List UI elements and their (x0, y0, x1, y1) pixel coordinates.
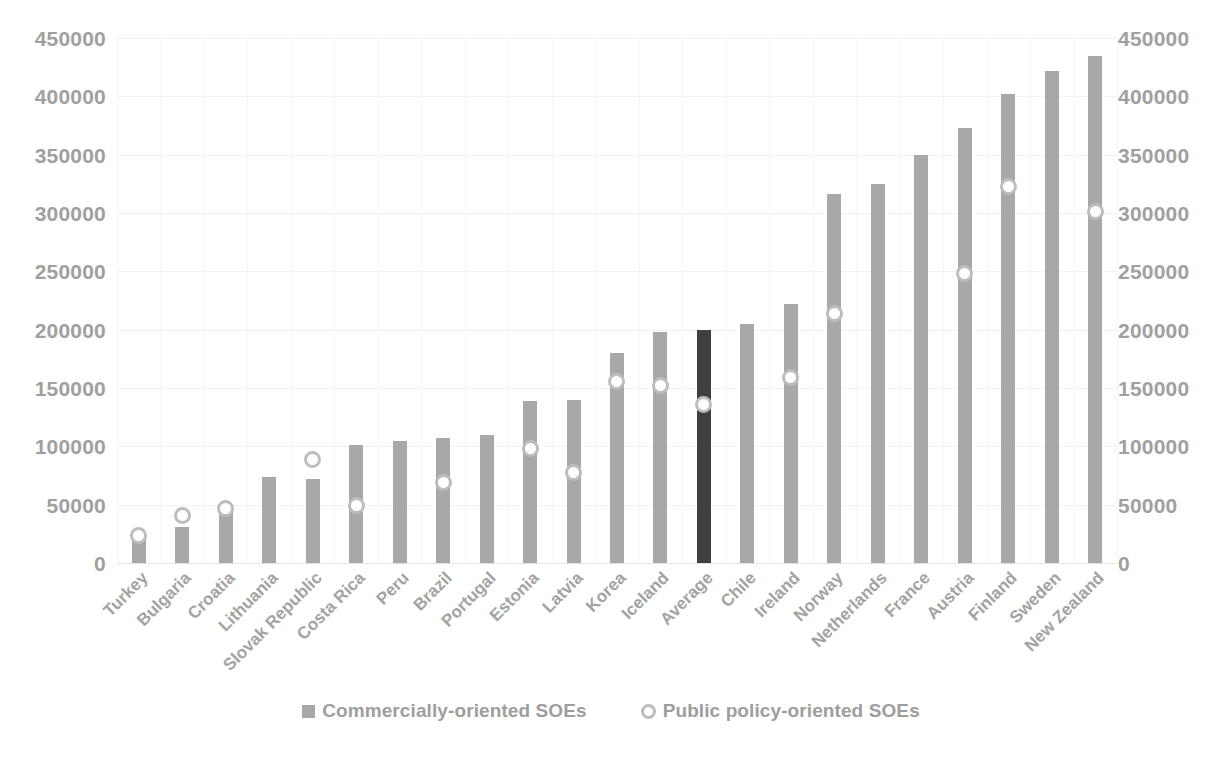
axis-tick-label: 100000 (35, 436, 106, 457)
axis-tick-label: 300000 (35, 203, 106, 224)
x-axis-tick: Peru (378, 563, 421, 693)
bar-group[interactable] (291, 38, 334, 563)
x-axis-tick: Chile (726, 563, 769, 693)
bar[interactable] (523, 401, 537, 563)
bar-group[interactable] (769, 38, 812, 563)
bar-group[interactable] (421, 38, 464, 563)
x-axis-tick: Costa Rica (334, 563, 377, 693)
bar[interactable] (436, 438, 450, 563)
bar-group[interactable] (160, 38, 203, 563)
bar[interactable] (784, 304, 798, 563)
bar-group[interactable] (987, 38, 1030, 563)
scatter-marker[interactable] (652, 377, 669, 394)
bar[interactable] (1001, 94, 1015, 563)
scatter-marker[interactable] (348, 497, 365, 514)
axis-tick-label: 50000 (47, 495, 106, 516)
x-axis-tick: Turkey (117, 563, 160, 693)
scatter-marker[interactable] (608, 373, 625, 390)
bar-group[interactable] (813, 38, 856, 563)
bar-group[interactable] (1074, 38, 1117, 563)
x-axis-tick: Austria (943, 563, 986, 693)
x-axis-tick: Iceland (639, 563, 682, 693)
bar-series-group (117, 38, 1117, 563)
bar[interactable] (219, 512, 233, 563)
scatter-marker[interactable] (217, 500, 234, 517)
x-axis-tick: France (900, 563, 943, 693)
axis-tick-label: 250000 (1118, 261, 1189, 282)
x-axis-tick: Finland (987, 563, 1030, 693)
bar-group[interactable] (204, 38, 247, 563)
axis-tick-label: 0 (94, 553, 106, 574)
bar-group[interactable] (552, 38, 595, 563)
scatter-marker[interactable] (1087, 203, 1104, 220)
plot-area (117, 38, 1117, 563)
axis-tick-label: 200000 (1118, 320, 1189, 341)
x-axis-tick: Ireland (769, 563, 812, 693)
chart-legend: Commercially-oriented SOEsPublic policy-… (0, 700, 1222, 722)
bar-group[interactable] (465, 38, 508, 563)
x-axis-labels: TurkeyBulgariaCroatiaLithuaniaSlovak Rep… (117, 563, 1117, 693)
bar[interactable] (914, 155, 928, 563)
bar[interactable] (827, 194, 841, 563)
bar[interactable] (1045, 71, 1059, 563)
bar-group[interactable] (247, 38, 290, 563)
bar[interactable] (1088, 56, 1102, 564)
legend-item[interactable]: Commercially-oriented SOEs (302, 700, 586, 722)
axis-tick-label: 0 (1118, 553, 1130, 574)
bar-group[interactable] (943, 38, 986, 563)
bar[interactable] (697, 330, 711, 563)
scatter-marker[interactable] (435, 474, 452, 491)
bar-group[interactable] (856, 38, 899, 563)
bar-group[interactable] (1030, 38, 1073, 563)
bar[interactable] (306, 479, 320, 563)
bar-group[interactable] (639, 38, 682, 563)
axis-tick-label: 150000 (35, 378, 106, 399)
bar[interactable] (740, 324, 754, 563)
axis-tick-label: 450000 (1118, 28, 1189, 49)
bar-group[interactable] (334, 38, 377, 563)
bar[interactable] (480, 435, 494, 563)
bar[interactable] (653, 332, 667, 563)
x-axis-tick-label: Peru (373, 569, 412, 608)
legend-label: Public policy-oriented SOEs (663, 700, 920, 722)
axis-tick-label: 400000 (1118, 86, 1189, 107)
bar[interactable] (567, 400, 581, 563)
axis-tick-label: 350000 (1118, 145, 1189, 166)
circle-swatch-icon (641, 704, 656, 719)
axis-tick-label: 250000 (35, 261, 106, 282)
axis-tick-label: 100000 (1118, 436, 1189, 457)
x-axis-tick: Korea (595, 563, 638, 693)
bar[interactable] (393, 441, 407, 564)
scatter-marker[interactable] (1000, 178, 1017, 195)
y-axis-right: 4500004000003500003000002500002000001500… (1118, 0, 1210, 600)
bar-group[interactable] (117, 38, 160, 563)
x-axis-tick: Latvia (552, 563, 595, 693)
scatter-marker[interactable] (304, 451, 321, 468)
legend-label: Commercially-oriented SOEs (322, 700, 586, 722)
x-axis-tick: New Zealand (1074, 563, 1117, 693)
axis-tick-label: 150000 (1118, 378, 1189, 399)
bar-group[interactable] (595, 38, 638, 563)
x-axis-tick: Portugal (465, 563, 508, 693)
bar-group[interactable] (682, 38, 725, 563)
chart-container: 4500004000003500003000002500002000001500… (0, 0, 1222, 763)
axis-tick-label: 450000 (35, 28, 106, 49)
legend-item[interactable]: Public policy-oriented SOEs (641, 700, 920, 722)
x-axis-tick: Netherlands (856, 563, 899, 693)
square-swatch-icon (302, 705, 315, 718)
scatter-marker[interactable] (130, 527, 147, 544)
bar[interactable] (175, 527, 189, 563)
scatter-marker[interactable] (522, 440, 539, 457)
bar-group[interactable] (900, 38, 943, 563)
bar[interactable] (871, 184, 885, 563)
scatter-marker[interactable] (174, 507, 191, 524)
scatter-marker[interactable] (565, 464, 582, 481)
axis-tick-label: 50000 (1118, 495, 1177, 516)
bar-group[interactable] (508, 38, 551, 563)
x-axis-tick: Average (682, 563, 725, 693)
scatter-marker[interactable] (826, 305, 843, 322)
bar-group[interactable] (378, 38, 421, 563)
bar[interactable] (262, 477, 276, 563)
bar-group[interactable] (726, 38, 769, 563)
bar[interactable] (958, 128, 972, 563)
